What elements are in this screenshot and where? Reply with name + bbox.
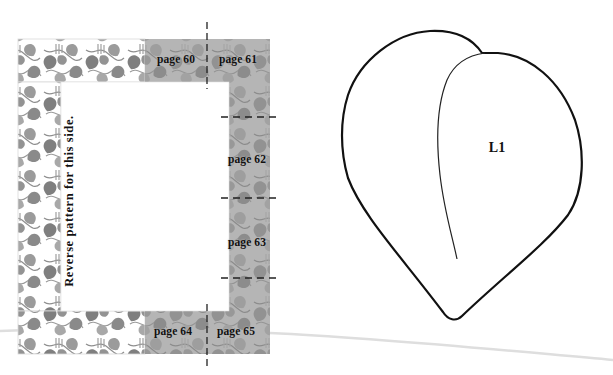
pattern-sheet: page 60 page 61 page 62 page 63 page 64 … — [0, 0, 613, 375]
leaf-template-l1 — [0, 0, 613, 375]
leaf-vein — [438, 53, 485, 259]
leaf-label-l1: L1 — [489, 141, 505, 155]
leaf-outline — [342, 31, 582, 320]
